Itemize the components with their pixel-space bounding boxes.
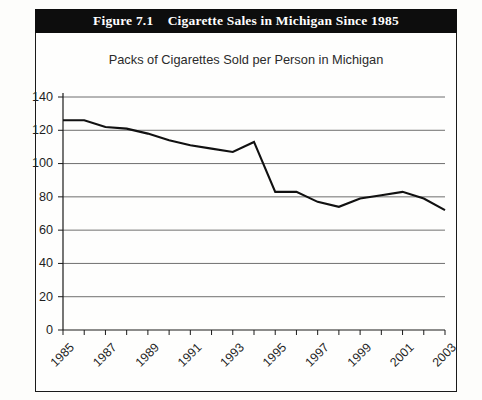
x-tick-label: 1987 — [90, 340, 119, 369]
x-tick-label: 1991 — [175, 340, 204, 369]
y-tick-label: 20 — [39, 290, 53, 304]
chart-plot-area: 020406080100120140 198519871989199119931… — [0, 0, 482, 400]
y-tick-label: 40 — [39, 256, 53, 270]
y-tick-label: 100 — [32, 156, 53, 170]
x-tick-label: 2003 — [430, 340, 459, 369]
x-tick-label: 1985 — [48, 340, 77, 369]
line-chart-svg: 020406080100120140 198519871989199119931… — [0, 0, 482, 400]
x-tick-label: 1995 — [260, 340, 289, 369]
x-tick-label: 1997 — [302, 340, 331, 369]
y-gridlines — [63, 97, 445, 297]
x-axis-tick-labels: 1985198719891991199319951997199920012003 — [48, 340, 459, 369]
y-tick-label: 80 — [39, 190, 53, 204]
y-tick-label: 0 — [46, 323, 53, 337]
y-axis-ticks — [58, 97, 63, 330]
y-axis-tick-labels: 020406080100120140 — [32, 90, 53, 337]
x-tick-label: 1989 — [133, 340, 162, 369]
y-tick-label: 140 — [32, 90, 53, 104]
x-axis-ticks — [63, 330, 445, 335]
y-tick-label: 60 — [39, 223, 53, 237]
y-tick-label: 120 — [32, 123, 53, 137]
x-tick-label: 1999 — [345, 340, 374, 369]
x-tick-label: 1993 — [217, 340, 246, 369]
x-tick-label: 2001 — [387, 340, 416, 369]
